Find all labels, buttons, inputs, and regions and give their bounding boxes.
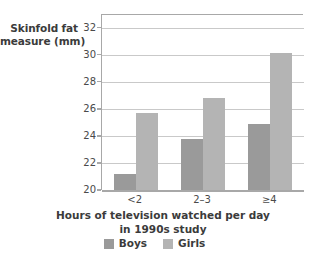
legend-entry-boys: Boys	[104, 238, 147, 249]
y-tick-label-20: 20	[70, 184, 96, 195]
y-tick-label-32: 32	[70, 22, 96, 33]
x-tick-label-2: 2–3	[172, 194, 232, 205]
bar-boys-group-1	[114, 174, 136, 190]
chart-legend: Boys Girls	[0, 238, 309, 249]
x-axis-title-line-1: Hours of television watched per day	[48, 209, 278, 223]
legend-entry-girls: Girls	[163, 238, 205, 249]
bar-girls-group-3	[270, 53, 292, 190]
y-axis-title-line-2: measure (mm)	[0, 35, 78, 48]
x-tick-label-3: ≥4	[239, 194, 299, 205]
y-tick-label-24: 24	[70, 130, 96, 141]
bar-boys-group-2	[181, 139, 203, 190]
gridline-20	[102, 190, 304, 192]
bar-girls-group-2	[203, 98, 225, 190]
y-axis-title: Skinfold fat measure (mm)	[0, 22, 78, 48]
skinfold-fat-bar-chart: Skinfold fat measure (mm) 20222426283032…	[0, 0, 309, 259]
x-axis-title: Hours of television watched per day in 1…	[48, 209, 278, 236]
y-tick-label-28: 28	[70, 76, 96, 87]
bar-girls-group-1	[136, 113, 158, 190]
plot-area	[101, 14, 303, 190]
x-axis-title-line-2: in 1990s study	[48, 223, 278, 237]
y-tick-label-22: 22	[70, 157, 96, 168]
x-tick-label-1: <2	[105, 194, 165, 205]
y-tick-label-30: 30	[70, 49, 96, 60]
legend-label-boys: Boys	[119, 238, 147, 249]
legend-swatch-boys-icon	[104, 239, 114, 249]
legend-label-girls: Girls	[178, 238, 205, 249]
gridline-32	[102, 28, 304, 29]
y-axis-title-line-1: Skinfold fat	[0, 22, 78, 35]
y-tick-label-26: 26	[70, 103, 96, 114]
bar-boys-group-3	[248, 124, 270, 190]
legend-swatch-girls-icon	[163, 239, 173, 249]
